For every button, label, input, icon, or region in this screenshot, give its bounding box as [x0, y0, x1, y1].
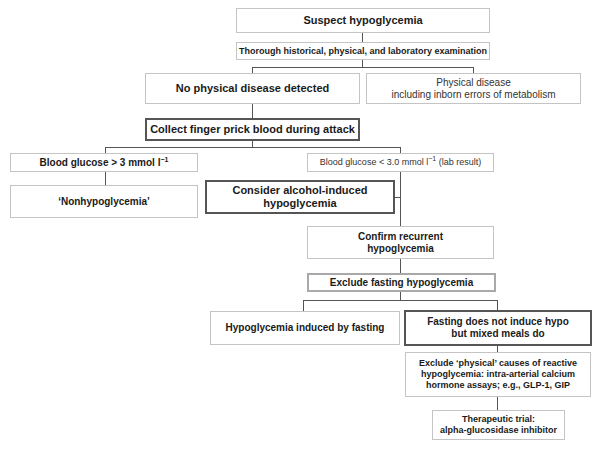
- node-alcohol-induced: Consider alcohol-induced hypoglycemia: [205, 180, 395, 214]
- connector-bg-low-confirm: [400, 172, 401, 226]
- node-exclude-fasting: Exclude fasting hypoglycemia: [307, 273, 496, 292]
- connector-exclude-physical-trial: [497, 397, 498, 410]
- node-suspect-hypoglycemia: Suspect hypoglycemia: [236, 8, 490, 33]
- node-label-line2: hypoglycemia: [367, 243, 434, 255]
- node-collect-finger-prick: Collect finger prick blood during attack: [145, 118, 360, 141]
- node-label: Blood glucose < 3.0 mmol l−1 (lab result…: [320, 157, 481, 168]
- node-label-line1: Fasting does not induce hypo: [427, 316, 569, 328]
- connector-confirm-exclude: [400, 259, 401, 273]
- node-blood-glucose-low: Blood glucose < 3.0 mmol l−1 (lab result…: [307, 153, 494, 172]
- node-label-line1: Therapeutic trial:: [462, 414, 535, 425]
- node-label-line1: Physical disease: [436, 77, 510, 89]
- connector-exclude-branch: [400, 292, 401, 300]
- connector-suspect-exam: [362, 33, 363, 42]
- node-nonhypoglycemia: ‘Nonhypoglycemia’: [10, 185, 198, 218]
- node-confirm-recurrent: Confirm recurrent hypoglycemia: [307, 226, 494, 259]
- connector-exam-split: [252, 67, 474, 68]
- node-mixed-meals: Fasting does not induce hypo but mixed m…: [404, 310, 592, 346]
- node-thorough-examination: Thorough historical, physical, and labor…: [236, 42, 490, 60]
- node-label-line3: hormone assays; e.g., GLP-1, GIP: [426, 380, 570, 391]
- node-no-physical-disease: No physical disease detected: [145, 73, 360, 104]
- node-label: Exclude fasting hypoglycemia: [330, 277, 473, 289]
- node-physical-disease: Physical disease including inborn errors…: [366, 73, 581, 104]
- node-fasting-induced: Hypoglycemia induced by fasting: [210, 311, 400, 345]
- node-label-line2: hypoglycemia: [263, 197, 336, 210]
- node-label: ‘Nonhypoglycemia’: [58, 196, 150, 208]
- connector-to-fasting-induced: [303, 300, 304, 311]
- connector-no-physical-collect: [252, 104, 253, 118]
- node-label: Hypoglycemia induced by fasting: [226, 322, 385, 334]
- node-label-line2: hypoglycemia: intra-arterial calcium: [421, 369, 575, 380]
- node-therapeutic-trial: Therapeutic trial: alpha-glucosidase inh…: [432, 410, 565, 440]
- connector-collect-split: [105, 147, 401, 148]
- connector-to-mixed-meals: [497, 300, 498, 310]
- node-label: Collect finger prick blood during attack: [150, 123, 355, 136]
- node-label: No physical disease detected: [176, 82, 329, 95]
- node-label-line1: Confirm recurrent: [358, 231, 443, 243]
- connector-to-alcohol: [395, 197, 400, 198]
- node-label: Blood glucose > 3 mmol l−1: [40, 157, 169, 169]
- node-label: Thorough historical, physical, and labor…: [239, 46, 487, 57]
- connector-exam-branch: [362, 60, 363, 67]
- connector-exclude-split: [303, 300, 498, 301]
- node-exclude-physical-causes: Exclude ‘physical’ causes of reactive hy…: [405, 352, 591, 397]
- connector-bg-high-nonhypo: [105, 172, 106, 185]
- node-blood-glucose-high: Blood glucose > 3 mmol l−1: [10, 153, 198, 172]
- node-label-line2: including inborn errors of metabolism: [392, 89, 556, 101]
- node-label-line1: Exclude ‘physical’ causes of reactive: [419, 358, 577, 369]
- node-label: Suspect hypoglycemia: [303, 14, 422, 27]
- node-label-line1: Consider alcohol-induced: [232, 184, 367, 197]
- node-label-line2: alpha-glucosidase inhibitor: [440, 425, 557, 436]
- node-label-line2: but mixed meals do: [451, 328, 544, 340]
